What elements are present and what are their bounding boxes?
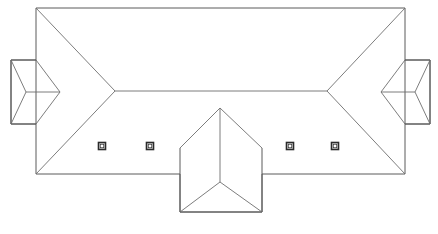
left-wing-hip-inner-bottom <box>36 92 60 124</box>
right-wing-group <box>381 60 430 124</box>
main-hip-bottom-left <box>36 91 115 174</box>
left-wing-group <box>11 60 60 124</box>
front-projection-hip-lower-left <box>180 182 220 212</box>
front-projection-hip-lower-right <box>220 182 262 212</box>
right-wing-hip-inner-bottom <box>381 92 405 124</box>
roof-vent-2-icon <box>147 143 154 150</box>
right-wing-hip-inner-top <box>381 60 405 92</box>
vent-square-inner <box>148 144 152 148</box>
left-wing-hip-outer-top <box>11 60 26 92</box>
main-hip-top-right <box>327 8 405 91</box>
vent-square-inner <box>288 144 292 148</box>
right-wing-hip-outer-bottom <box>415 92 430 124</box>
roof-vent-4-icon <box>332 143 339 150</box>
roof-plan-canvas <box>0 0 438 234</box>
front-projection-hip-upper-right <box>220 108 262 148</box>
right-wing-hip-outer-top <box>415 60 430 92</box>
roof-plan-drawing <box>0 0 438 234</box>
main-hip-bottom-right <box>327 91 405 174</box>
roof-vent-3-icon <box>287 143 294 150</box>
front-projection-hip-upper-left <box>180 108 220 148</box>
left-wing-hip-inner-top <box>36 60 60 92</box>
vent-square-inner <box>100 144 104 148</box>
left-wing-hip-outer-bottom <box>11 92 26 124</box>
main-roof-outline <box>11 8 430 212</box>
front-projection-group <box>180 108 262 212</box>
main-hip-top-left <box>36 8 115 91</box>
vent-square-inner <box>333 144 337 148</box>
roof-vent-1-icon <box>99 143 106 150</box>
roof-vent-layer <box>99 143 339 150</box>
